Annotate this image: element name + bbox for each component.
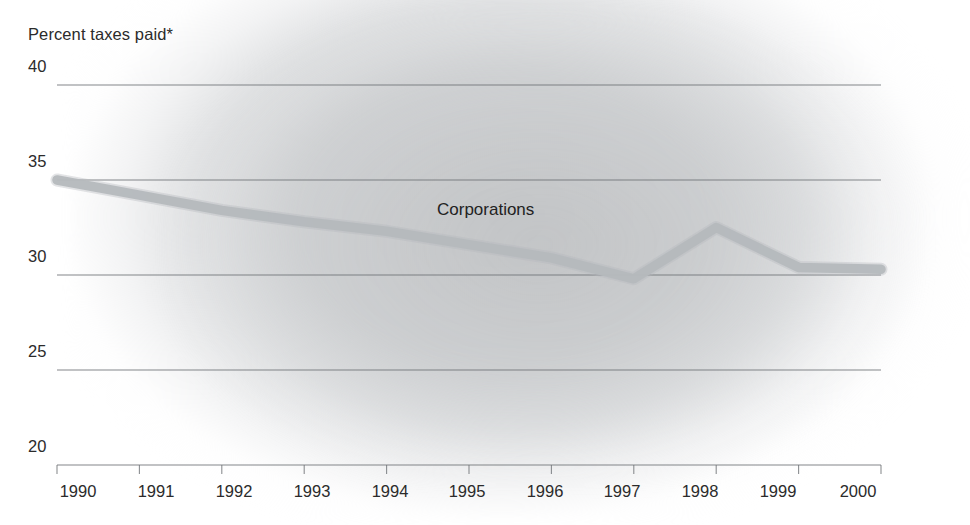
gridlines-group (57, 85, 881, 465)
series-line-corporations (57, 180, 881, 279)
data-series-group (57, 180, 881, 279)
x-tick-marks-group (57, 465, 881, 474)
series-halo-0 (57, 180, 881, 279)
